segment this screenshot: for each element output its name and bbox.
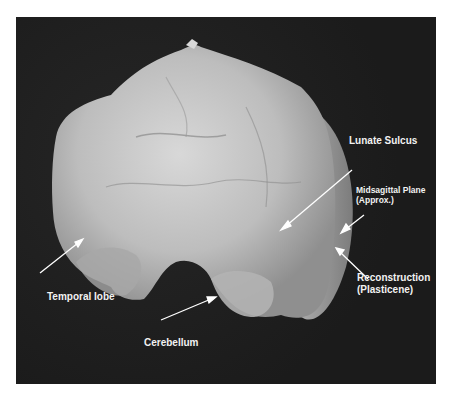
label-midsagittal-line1: Midsagittal Plane xyxy=(356,185,425,195)
cropped-caption-top xyxy=(20,6,430,12)
label-cerebellum: Cerebellum xyxy=(144,337,198,349)
label-lunate-sulcus: Lunate Sulcus xyxy=(349,135,417,147)
cropped-caption-bottom xyxy=(20,394,430,400)
label-reconstruction-line1: Reconstruction xyxy=(357,272,430,284)
label-midsagittal-plane: Midsagittal Plane (Approx.) xyxy=(356,185,425,205)
label-reconstruction-line2: (Plasticene) xyxy=(357,284,430,296)
label-midsagittal-line2: (Approx.) xyxy=(356,195,425,205)
specimen-photo: Lunate Sulcus Midsagittal Plane (Approx.… xyxy=(16,17,436,384)
label-reconstruction: Reconstruction (Plasticene) xyxy=(357,272,430,296)
label-temporal-lobe: Temporal lobe xyxy=(47,291,115,303)
